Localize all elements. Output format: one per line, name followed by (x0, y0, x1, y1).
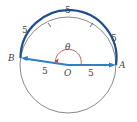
circle-diagram: θ O A B 5 5 5 5 5 (0, 0, 137, 122)
arc-tick (90, 23, 93, 27)
label-arc-3: 5 (111, 33, 117, 43)
arrowhead-A-icon (109, 63, 116, 68)
label-radius-OB: 5 (42, 66, 48, 76)
arrowhead-B-icon (21, 56, 28, 61)
label-O: O (64, 68, 72, 78)
label-radius-OA: 5 (88, 68, 94, 78)
label-theta: θ (65, 42, 71, 52)
radius-OB (24, 59, 68, 66)
label-B: B (7, 53, 15, 63)
arc-tick (48, 23, 51, 27)
label-arc-2: 5 (65, 5, 71, 15)
arc-AB (21, 10, 117, 65)
label-arc-1: 5 (22, 25, 28, 35)
label-A: A (118, 60, 126, 70)
